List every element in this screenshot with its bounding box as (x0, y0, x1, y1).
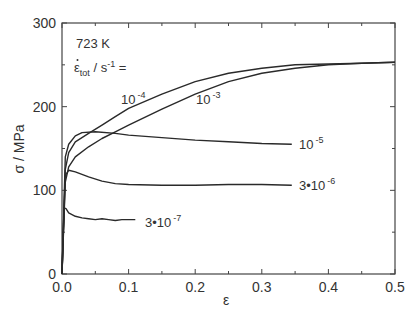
chart-svg: 0.00.10.20.30.40.50100200300 10-310-410-… (0, 0, 415, 324)
x-tick-label: 0.5 (385, 279, 405, 295)
strain-rate-label: εtot / s-1 = (74, 59, 126, 78)
curve-3e-7 (62, 208, 135, 274)
y-tick-label: 100 (33, 182, 57, 198)
y-tick-label: 200 (33, 99, 57, 115)
rate-unit: / s (90, 60, 108, 75)
plot-axes: 0.00.10.20.30.40.50100200300 (33, 15, 405, 295)
y-tick-label: 300 (33, 15, 57, 31)
x-tick-label: 0.3 (252, 279, 272, 295)
curve-label-3e-6: 3•10-6 (299, 176, 335, 193)
y-tick-label: 0 (48, 266, 56, 282)
curves (62, 62, 395, 274)
rate-unit-exp: -1 (107, 59, 115, 69)
x-tick-label: 0.4 (319, 279, 339, 295)
y-axis-label: σ / MPa (11, 124, 27, 173)
curve-label-3e-7: 3•10-7 (145, 213, 181, 230)
curve-1e-5 (62, 132, 292, 274)
rate-subscript: tot (80, 68, 91, 78)
curve-label-1e-3: 10-3 (196, 90, 220, 107)
curve-label-1e-4: 10-4 (121, 90, 145, 107)
temperature-annotation: 723 K (76, 36, 110, 51)
x-tick-label: 0.2 (185, 279, 205, 295)
curve-1e-3 (62, 62, 395, 274)
stress-strain-chart: 0.00.10.20.30.40.50100200300 10-310-410-… (0, 0, 415, 324)
curve-labels: 10-310-410-53•10-63•10-7 (121, 90, 335, 230)
x-tick-label: 0.1 (119, 279, 139, 295)
curve-label-1e-5: 10-5 (299, 135, 323, 152)
svg-text:εtot / s-1 =: εtot / s-1 = (74, 59, 126, 78)
rate-equals: = (115, 60, 126, 75)
curve-1e-4 (62, 62, 395, 274)
x-axis-label: ε (223, 292, 229, 308)
rate-dot-icon (77, 59, 79, 61)
